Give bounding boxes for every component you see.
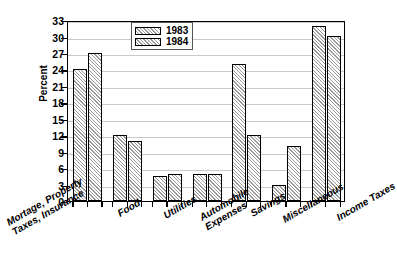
bar-1984-2	[168, 174, 182, 201]
y-tick-label: 9	[24, 148, 64, 158]
legend-entry-1984: 1984	[135, 36, 188, 47]
x-tick-mark	[112, 202, 113, 207]
y-tick-label: 21	[24, 82, 64, 92]
bar-1983-4	[232, 64, 246, 201]
y-tick-label: 33	[24, 16, 64, 26]
x-tick-mark	[325, 202, 326, 207]
x-tick-mark	[152, 202, 153, 207]
bars-layer	[68, 22, 344, 201]
bar-1984-3	[208, 174, 222, 201]
legend-label-1984: 1984	[166, 37, 188, 47]
bar-1984-1	[128, 141, 142, 201]
x-tick-mark	[285, 202, 286, 207]
y-tick-label: 30	[24, 33, 64, 43]
chart-legend: 1983 1984	[131, 22, 193, 50]
x-tick-mark	[87, 202, 88, 207]
legend-entry-1983: 1983	[135, 25, 188, 36]
y-tick-label: 18	[24, 98, 64, 108]
bar-1983-2	[153, 176, 167, 201]
bar-1984-4	[247, 135, 261, 201]
bar-1984-0	[88, 53, 102, 201]
figure-caption	[0, 259, 359, 271]
bar-1984-5	[287, 146, 301, 201]
bar-1983-6	[312, 26, 326, 202]
y-tick-label: 24	[24, 65, 64, 75]
bar-1984-6	[327, 36, 341, 201]
legend-swatch-1984	[135, 38, 161, 46]
bar-1983-1	[113, 135, 127, 201]
y-tick-label: 12	[24, 131, 64, 141]
plot-area	[67, 21, 345, 202]
x-tick-mark	[101, 202, 102, 207]
x-tick-mark	[340, 202, 341, 207]
y-tick-label: 27	[24, 49, 64, 59]
legend-swatch-1983	[135, 27, 161, 35]
y-tick-label: 6	[24, 164, 64, 174]
y-tick-label: 15	[24, 115, 64, 125]
legend-label-1983: 1983	[166, 26, 188, 36]
